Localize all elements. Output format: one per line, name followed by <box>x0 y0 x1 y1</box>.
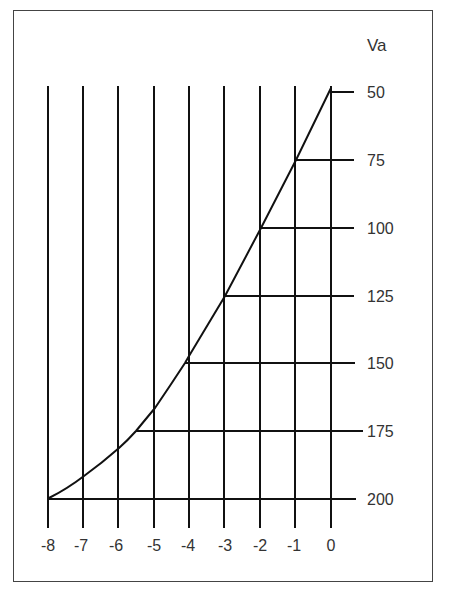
y-tick-label-175: 175 <box>367 424 394 440</box>
y-tick-label-50: 50 <box>367 85 385 101</box>
vertical-grid-lines <box>48 86 331 528</box>
x-tick-label-neg8: -8 <box>41 538 55 554</box>
x-tick-label-neg6: -6 <box>109 538 123 554</box>
x-tick-label-neg5: -5 <box>147 538 161 554</box>
x-tick-label-neg4: -4 <box>181 538 195 554</box>
y-axis-title: Va <box>367 37 387 54</box>
x-tick-label-0: 0 <box>327 538 336 554</box>
y-tick-label-200: 200 <box>367 492 394 508</box>
horizontal-reference-lines <box>48 92 363 499</box>
y-tick-label-125: 125 <box>367 289 394 305</box>
x-tick-label-neg1: -1 <box>287 538 301 554</box>
y-tick-label-75: 75 <box>367 153 385 169</box>
y-tick-label-100: 100 <box>367 221 394 237</box>
y-tick-label-150: 150 <box>367 356 394 372</box>
x-tick-label-neg3: -3 <box>218 538 232 554</box>
x-tick-label-neg2: -2 <box>253 538 267 554</box>
x-tick-label-neg7: -7 <box>74 538 88 554</box>
